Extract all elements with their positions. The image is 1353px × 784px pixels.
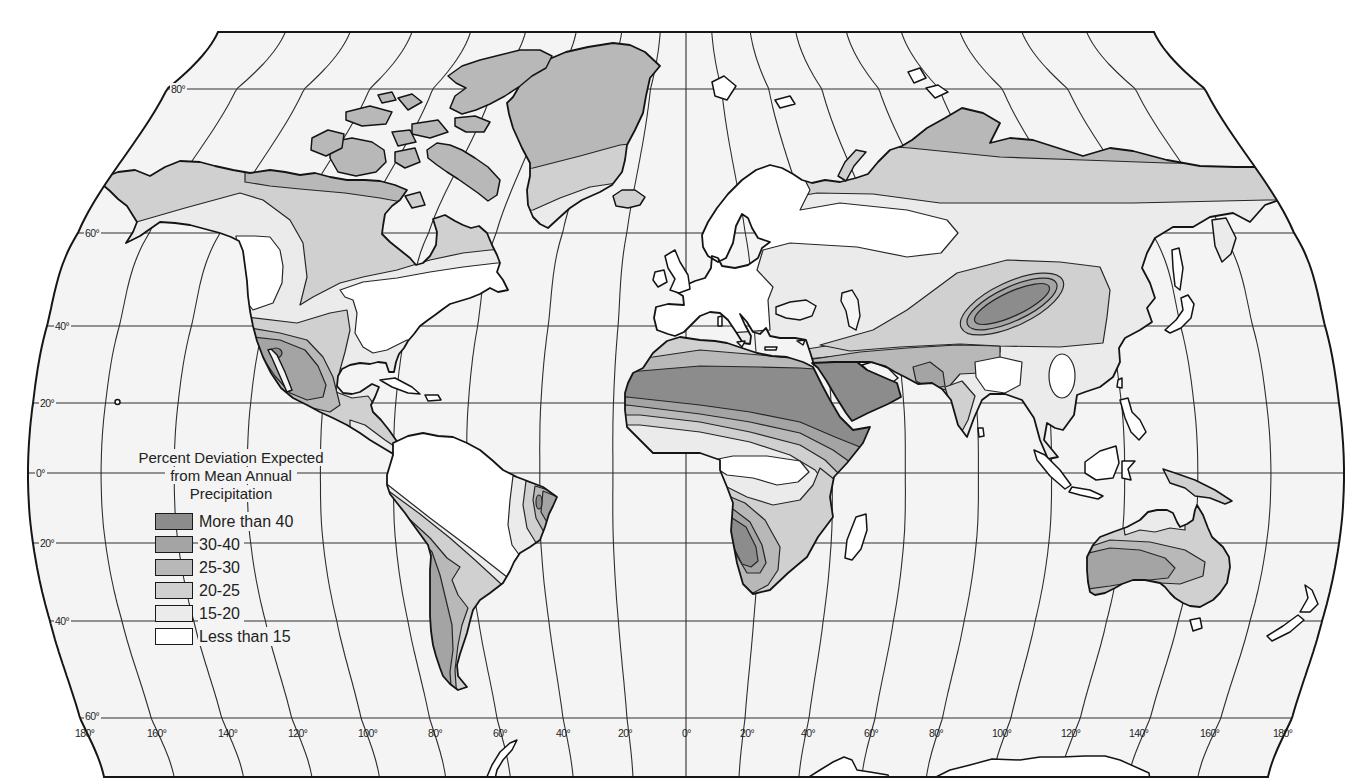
- island-hispaniola: [425, 395, 441, 401]
- latitude-label-80n: 80°: [170, 83, 187, 95]
- longitude-label-140w: 140°: [218, 727, 237, 739]
- legend-item-15-20: 15-20: [155, 604, 244, 623]
- legend-label: 25-30: [198, 558, 244, 577]
- legend-item-less-than-15: Less than 15: [155, 627, 295, 646]
- latitude-label-equator: 0°: [35, 467, 47, 479]
- legend-title-line-3: Precipitation: [100, 485, 362, 503]
- world-map: [0, 0, 1353, 784]
- longitude-label-180w: 180°: [75, 727, 94, 739]
- precipitation-deviation-map-figure: 80° 60° 40° 20° 0° 20° 40° 60° 180° 160°…: [0, 0, 1353, 784]
- longitude-label-140e: 140°: [1129, 727, 1148, 739]
- latitude-label-20n: 20°: [39, 397, 56, 409]
- legend-swatch-less-than-15: [155, 628, 193, 645]
- legend-swatch-20-25: [155, 582, 193, 599]
- legend-label: 20-25: [198, 581, 244, 600]
- longitude-label-40e: 40°: [801, 727, 815, 739]
- island-tasmania: [1190, 618, 1202, 631]
- island-sri-lanka: [978, 428, 984, 437]
- island-hawaii: [115, 400, 120, 405]
- island-sardinia: [718, 316, 722, 326]
- legend-item-more-than-40: More than 40: [155, 512, 297, 531]
- island-crete: [765, 347, 777, 350]
- longitude-label-160e: 160°: [1200, 727, 1219, 739]
- latitude-label-40n: 40°: [54, 320, 71, 332]
- legend-title-line-2: from Mean Annual: [100, 467, 362, 485]
- legend-label: 15-20: [198, 604, 244, 623]
- longitude-label-0: 0°: [682, 727, 691, 739]
- legend-label: 30-40: [198, 535, 244, 554]
- legend-item-30-40: 30-40: [155, 535, 244, 554]
- legend-label: More than 40: [198, 512, 297, 531]
- latitude-label-20s: 20°: [39, 537, 56, 549]
- longitude-label-180e: 180°: [1273, 727, 1292, 739]
- legend-label: Less than 15: [198, 627, 295, 646]
- legend-swatch-30-40: [155, 536, 193, 553]
- latitude-label-40s: 40°: [54, 615, 71, 627]
- island-taiwan: [1117, 378, 1122, 388]
- zone-gt40: [536, 495, 542, 509]
- longitude-label-120w: 120°: [288, 727, 307, 739]
- longitude-label-20e: 20°: [740, 727, 754, 739]
- latitude-label-60n: 60°: [84, 227, 101, 239]
- latitude-label-60s: 60°: [84, 710, 101, 722]
- longitude-label-100e: 100°: [992, 727, 1011, 739]
- legend-swatch-25-30: [155, 559, 193, 576]
- longitude-label-20w: 20°: [618, 727, 632, 739]
- longitude-label-60e: 60°: [864, 727, 878, 739]
- longitude-label-160w: 160°: [147, 727, 166, 739]
- legend-title-line-1: Percent Deviation Expected: [100, 449, 362, 467]
- zone-lt15: [1049, 354, 1075, 398]
- legend-swatch-more-than-40: [155, 513, 193, 530]
- longitude-label-40w: 40°: [556, 727, 570, 739]
- legend-item-25-30: 25-30: [155, 558, 244, 577]
- legend-swatch-15-20: [155, 605, 193, 622]
- longitude-label-120e: 120°: [1061, 727, 1080, 739]
- legend-item-20-25: 20-25: [155, 581, 244, 600]
- longitude-label-80w: 80°: [428, 727, 442, 739]
- longitude-label-100w: 100°: [358, 727, 377, 739]
- longitude-label-60w: 60°: [493, 727, 507, 739]
- longitude-label-80e: 80°: [929, 727, 943, 739]
